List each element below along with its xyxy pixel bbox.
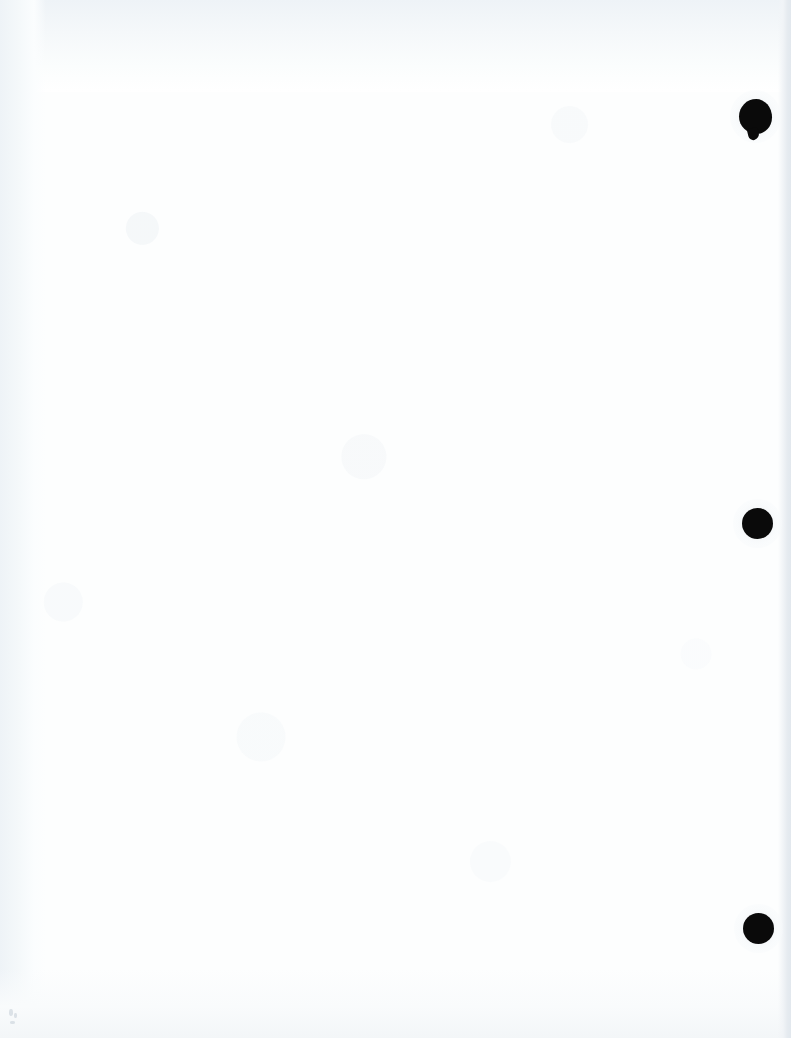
scanned-page [0, 0, 791, 1038]
scan-speck [10, 1021, 15, 1024]
scan-speck [14, 1013, 17, 1018]
paper-surface [0, 0, 791, 1038]
scan-speck [9, 1009, 13, 1016]
hole-punch-mark-top [739, 99, 772, 134]
hole-punch-mark-middle [742, 508, 773, 539]
hole-punch-mark-bottom [743, 913, 774, 944]
